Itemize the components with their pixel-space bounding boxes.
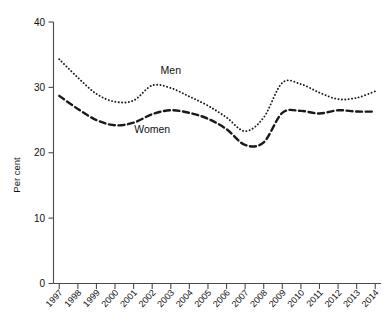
chart-container: 010203040 Per cent 199719981999200020012…: [0, 0, 392, 333]
y-tick-label: 30: [34, 82, 46, 93]
line-chart: 010203040 Per cent 199719981999200020012…: [0, 0, 392, 333]
y-tick-label: 0: [39, 278, 45, 289]
y-axis-label: Per cent: [11, 157, 22, 193]
y-tick-label: 10: [34, 213, 46, 224]
series-annotation-men: Men: [161, 64, 182, 76]
y-tick-label: 20: [34, 147, 46, 158]
series-annotation-women: Women: [134, 123, 170, 135]
y-tick-label: 40: [34, 17, 46, 28]
